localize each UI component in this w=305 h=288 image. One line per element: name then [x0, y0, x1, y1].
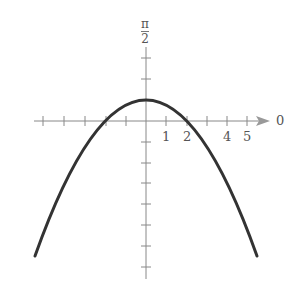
- x-tick-label-5: 5: [243, 130, 251, 143]
- polar-graph: [0, 0, 305, 288]
- top-axis-label: π 2: [141, 18, 149, 45]
- x-tick-label-2: 2: [183, 130, 191, 143]
- top-label-numerator: π: [141, 18, 149, 30]
- y-axis: [141, 47, 151, 279]
- top-label-denominator: 2: [141, 33, 149, 45]
- x-tick-label-1: 1: [162, 130, 170, 143]
- x-tick-label-4: 4: [223, 130, 231, 143]
- right-axis-label: 0: [276, 114, 284, 127]
- x-axis: [34, 116, 262, 126]
